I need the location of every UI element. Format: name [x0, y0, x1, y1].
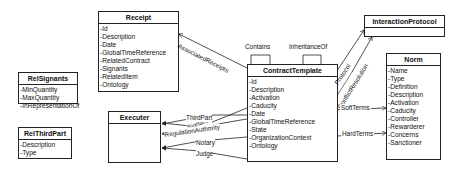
attribute: Concerns — [387, 131, 440, 139]
attribute: Caducity — [387, 107, 440, 115]
attribute: Controller — [387, 115, 440, 123]
attribute: MaxQuantity — [19, 94, 77, 102]
attribute: RelatedItem — [99, 73, 178, 81]
class-title: RelThirdPart — [19, 128, 71, 140]
relation-label-third-part: ThirdPart — [186, 114, 212, 122]
attribute: Id — [248, 78, 337, 86]
class-title: ContractTemplate — [248, 65, 337, 77]
attribute: Id — [99, 25, 178, 33]
relation-label-judge: Judge — [196, 150, 213, 158]
attribute: OrganizationContext — [248, 134, 337, 142]
class-title: InteractionProtocol — [365, 16, 444, 28]
class-title: Norm — [387, 54, 440, 66]
attribute: Sanctioner — [387, 139, 440, 147]
attribute: Type — [387, 75, 440, 83]
attribute: State — [248, 126, 337, 134]
class-contracttemplate: ContractTemplate Id Description Activati… — [247, 64, 338, 162]
attribute: GlobalTimeReference — [99, 49, 178, 57]
attribute: Description — [248, 86, 337, 94]
attribute: Ontology — [248, 142, 337, 150]
attribute: Definition — [387, 83, 440, 91]
class-relsignants: RelSignants MinQuantity MaxQuantity InRe… — [18, 72, 78, 104]
attribute-list: Name Type Definition Description Activat… — [387, 66, 440, 147]
attribute: MinQuantity — [19, 86, 77, 94]
relation-label-contains: Contains — [245, 43, 270, 51]
class-norm: Norm Name Type Definition Description Ac… — [386, 53, 441, 160]
attribute: Date — [248, 110, 337, 118]
attribute: GlobalTimeReference — [248, 118, 337, 126]
attribute: Type — [19, 149, 71, 157]
attribute: Description — [99, 33, 178, 41]
attribute: Date — [99, 41, 178, 49]
attribute: Description — [19, 141, 71, 149]
relation-label-inheritance-of: InheritanceOf — [289, 43, 327, 51]
attribute-list: Id Description Activation Caducity Date … — [248, 77, 337, 150]
attribute: Caducity — [248, 102, 337, 110]
attribute: Signants — [99, 65, 178, 73]
attribute: Ontology — [99, 81, 178, 89]
class-receipt: Receipt Id Description Date GlobalTimeRe… — [98, 11, 179, 92]
attribute-list: MinQuantity MaxQuantity InRepresentation… — [19, 85, 77, 110]
relation-label-soft-terms: SoftTerms — [340, 104, 371, 112]
class-title: RelSignants — [19, 73, 77, 85]
class-executer: Executer — [108, 111, 161, 163]
attribute-list: Id Description Date GlobalTimeReference … — [99, 24, 178, 89]
attribute: InRepresentationOf — [19, 102, 77, 110]
attribute: Activation — [387, 99, 440, 107]
class-interactionprotocol: InteractionProtocol — [364, 15, 445, 37]
class-title: Receipt — [99, 12, 178, 24]
attribute: Name — [387, 67, 440, 75]
attribute: Description — [387, 91, 440, 99]
class-title: Executer — [109, 112, 160, 124]
attribute-list: Description Type — [19, 140, 71, 157]
attribute: Activation — [248, 94, 337, 102]
attribute: RelatedContract — [99, 57, 178, 65]
relation-label-hard-terms: HardTerms — [341, 130, 374, 138]
relation-label-notary: Notary — [196, 139, 215, 147]
class-relthirdpart: RelThirdPart Description Type — [18, 127, 72, 159]
attribute: Rewarderer — [387, 123, 440, 131]
